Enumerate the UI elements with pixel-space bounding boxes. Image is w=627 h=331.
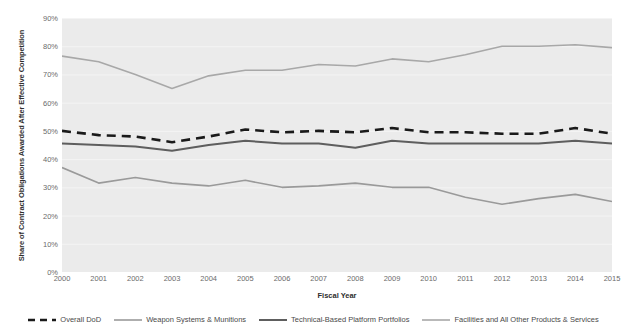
- y-axis-tick-label: 50%: [24, 126, 58, 135]
- x-axis-tick-label: 2009: [372, 274, 412, 283]
- y-axis-tick-label: 40%: [24, 155, 58, 164]
- series-line: [62, 168, 612, 205]
- solid-line-swatch: [114, 318, 142, 321]
- x-axis-tick-label: 2001: [79, 274, 119, 283]
- y-axis-tick-label: 30%: [24, 183, 58, 192]
- plot-area: [62, 18, 612, 272]
- legend-item[interactable]: Technical-Based Platform Portfolios: [259, 315, 409, 324]
- legend-label: Technical-Based Platform Portfolios: [291, 315, 409, 324]
- legend-item[interactable]: Facilities and All Other Products & Serv…: [422, 315, 598, 324]
- x-axis-tick-label: 2000: [42, 274, 82, 283]
- x-axis-tick-label: 2014: [555, 274, 595, 283]
- y-axis-tick-label: 60%: [24, 98, 58, 107]
- x-axis-tick-label: 2002: [115, 274, 155, 283]
- x-axis-tick-label: 2007: [299, 274, 339, 283]
- x-axis-tick-labels: 2000200120022003200420052006200720082009…: [62, 274, 612, 288]
- x-axis-tick-label: 2011: [445, 274, 485, 283]
- competition-share-line-chart: Share of Contract Obligations Awarded Af…: [0, 0, 627, 331]
- x-axis-tick-label: 2013: [519, 274, 559, 283]
- legend-label: Weapon Systems & Munitions: [146, 315, 246, 324]
- x-axis-tick-label: 2008: [335, 274, 375, 283]
- y-axis-tick-label: 20%: [24, 211, 58, 220]
- legend-label: Overall DoD: [60, 315, 101, 324]
- legend-label: Facilities and All Other Products & Serv…: [454, 315, 598, 324]
- series-line: [62, 45, 612, 89]
- x-axis-tick-label: 2004: [189, 274, 229, 283]
- y-axis-tick-label: 10%: [24, 239, 58, 248]
- x-axis-title: Fiscal Year: [62, 291, 612, 300]
- y-axis-tick-label: 90%: [24, 14, 58, 23]
- chart-legend: Overall DoDWeapon Systems & MunitionsTec…: [0, 312, 627, 326]
- x-axis-tick-label: 2012: [482, 274, 522, 283]
- y-axis-tick-label: 80%: [24, 42, 58, 51]
- legend-item[interactable]: Weapon Systems & Munitions: [114, 315, 246, 324]
- solid-line-swatch: [422, 318, 450, 321]
- y-axis-tick-label: 70%: [24, 70, 58, 79]
- x-axis-tick-label: 2005: [225, 274, 265, 283]
- solid-line-swatch: [259, 318, 287, 321]
- x-axis-tick-label: 2006: [262, 274, 302, 283]
- plot-svg: [62, 18, 612, 272]
- x-axis-tick-label: 2010: [409, 274, 449, 283]
- series-line: [62, 141, 612, 151]
- dashed-line-swatch: [28, 318, 56, 321]
- x-axis-tick-label: 2003: [152, 274, 192, 283]
- cropped-title-strip: [0, 0, 627, 9]
- series-line: [62, 128, 612, 142]
- x-axis-tick-label: 2015: [592, 274, 627, 283]
- legend-item[interactable]: Overall DoD: [28, 315, 101, 324]
